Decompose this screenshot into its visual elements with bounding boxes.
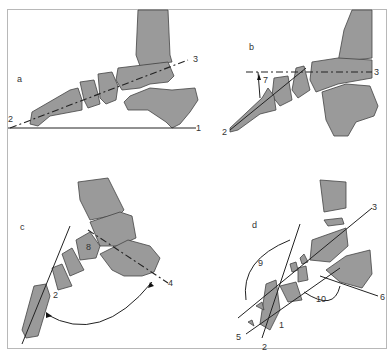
- line-label-3: 3: [372, 202, 377, 212]
- panel-a: a 3 2 1: [8, 10, 201, 133]
- panel-a-label: a: [17, 74, 22, 84]
- panel-d: d 9 10 3 6 5 2 1: [236, 180, 385, 352]
- line-label-3: 3: [193, 54, 198, 64]
- line-label-3: 3: [374, 67, 379, 77]
- angle-label-8: 8: [86, 242, 91, 252]
- line-label-2: 2: [222, 127, 227, 137]
- panel-d-label: d: [252, 220, 257, 230]
- panel-c: c 8 4 2: [20, 178, 173, 344]
- line-label-2: 2: [8, 114, 13, 124]
- line-label-2: 2: [53, 290, 58, 300]
- panel-b-label: b: [249, 42, 254, 52]
- panel-c-label: c: [20, 222, 25, 232]
- foot-axes-diagram: a 3 2 1 b 7 3 2: [0, 0, 392, 358]
- panel-b: b 7 3 2: [222, 10, 379, 137]
- line-label-5: 5: [236, 332, 241, 342]
- line-label-2: 2: [262, 342, 267, 352]
- line-label-1: 1: [196, 123, 201, 133]
- line-label-4: 4: [168, 278, 173, 288]
- line-label-1: 1: [279, 320, 284, 330]
- angle-label-9: 9: [258, 258, 263, 268]
- angle-label-7: 7: [263, 75, 268, 85]
- angle-label-10: 10: [316, 294, 326, 304]
- line-label-6: 6: [380, 292, 385, 302]
